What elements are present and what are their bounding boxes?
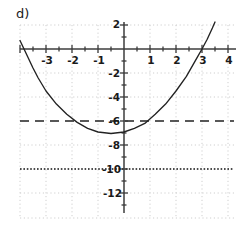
x-tick-label-1: 1 [147, 54, 154, 66]
x-tick-label-4: 4 [225, 54, 232, 66]
x-tick-label-3: 3 [199, 54, 206, 66]
panel-label: d) [16, 6, 29, 21]
y-tick-label-2: 2 [113, 18, 120, 30]
y-tick-label--6: -6 [108, 115, 120, 127]
y-tick-label--8: -8 [108, 139, 120, 151]
y-tick-label--2: -2 [108, 67, 120, 79]
y-tick-label--10: -10 [102, 163, 121, 175]
y-tick-label--12: -12 [103, 187, 122, 199]
y-axis-tick-labels: 2 -2 -4 -6 -8 -10 -12 [102, 18, 122, 199]
x-tick-label--1: -1 [93, 54, 105, 66]
y-tick-label--4: -4 [108, 91, 120, 103]
x-axis-tick-labels: -3 -2 -1 1 2 3 4 [41, 54, 232, 66]
x-tick-label-2: 2 [173, 54, 180, 66]
graph-figure: d) [0, 0, 251, 233]
coordinate-plane: -3 -2 -1 1 2 3 4 2 -2 -4 -6 -8 -10 -12 [0, 0, 251, 233]
x-tick-label--3: -3 [41, 54, 53, 66]
x-tick-label--2: -2 [67, 54, 79, 66]
